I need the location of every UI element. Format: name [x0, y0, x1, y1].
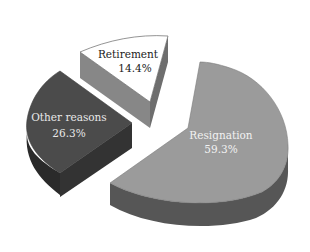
pie-chart-svg: Other reasons 26.3% Retirement 14.4% Res… [0, 0, 310, 252]
label-resignation-value: 59.3% [204, 143, 237, 155]
label-other-reasons-value: 26.3% [52, 127, 85, 139]
label-retirement-name: Retirement [98, 48, 159, 60]
label-resignation-name: Resignation [189, 129, 253, 141]
pie-chart: Other reasons 26.3% Retirement 14.4% Res… [0, 0, 310, 252]
label-other-reasons-name: Other reasons [31, 111, 107, 123]
label-retirement-value: 14.4% [118, 62, 151, 74]
